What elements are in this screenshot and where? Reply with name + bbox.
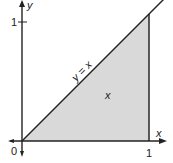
diagram: y 1 x 0 1 x y = x	[0, 0, 173, 163]
region-label: x	[104, 89, 111, 101]
y-axis-label: y	[26, 0, 34, 11]
plot-canvas: y 1 x 0 1 x y = x	[0, 0, 173, 163]
origin-label: 0	[11, 145, 17, 157]
x-axis-left-arrow-icon	[8, 139, 14, 143]
y-tick-label: 1	[11, 16, 17, 28]
y-axis-down-arrow-icon	[20, 151, 24, 157]
x-axis-label: x	[155, 127, 162, 139]
y-axis-arrow-icon	[19, 0, 25, 7]
x-tick-label: 1	[146, 147, 152, 159]
